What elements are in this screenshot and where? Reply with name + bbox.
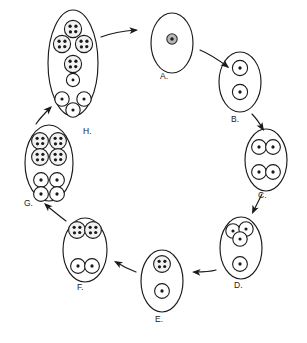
granule <box>55 192 58 195</box>
granule <box>36 153 39 156</box>
stage-label-e: E. <box>155 314 163 324</box>
arrow-h-to-a <box>101 27 138 37</box>
granule <box>54 137 57 140</box>
cell-membrane <box>25 125 73 201</box>
granule <box>78 226 81 229</box>
stage-d: D. <box>220 217 262 290</box>
stage-label-f: F. <box>77 282 84 292</box>
granule <box>82 97 85 100</box>
granule <box>39 192 42 195</box>
stage-label-a: A. <box>160 71 168 81</box>
granule <box>271 145 274 148</box>
granule <box>89 226 92 229</box>
granule <box>57 40 60 43</box>
stage-h: H. <box>48 10 98 136</box>
granule <box>163 260 166 263</box>
cell-cycle-diagram: A.B.C.D.E.F.G.H. <box>0 0 307 343</box>
granule <box>59 153 62 156</box>
granule <box>69 30 72 33</box>
spore-mature <box>64 55 81 72</box>
arrow-head-icon <box>112 258 123 268</box>
granule <box>36 142 39 145</box>
arrow-d-to-e <box>192 269 216 276</box>
granule <box>69 65 72 68</box>
stage-label-b: B. <box>231 114 239 124</box>
granule <box>271 170 274 173</box>
stage-label-g: G. <box>24 198 33 208</box>
stage-f: F. <box>63 218 107 292</box>
granule <box>160 289 163 292</box>
granule <box>238 262 241 265</box>
arrow-shaft <box>46 205 66 221</box>
granule <box>54 158 57 161</box>
granule <box>74 60 77 63</box>
granule <box>89 231 92 234</box>
spore-mature <box>75 35 92 52</box>
granule <box>85 45 88 48</box>
granule <box>54 153 57 156</box>
stage-c: C. <box>245 129 287 200</box>
spore-mature <box>50 133 67 150</box>
granule <box>68 25 71 28</box>
granule <box>73 226 76 229</box>
granule <box>244 227 247 230</box>
granule <box>163 265 166 268</box>
granule <box>41 153 44 156</box>
granule <box>80 45 83 48</box>
granule <box>36 137 39 140</box>
granule <box>257 170 260 173</box>
granule <box>238 90 241 93</box>
spore-mature <box>32 149 49 166</box>
granule <box>257 145 260 148</box>
granule <box>73 231 76 234</box>
arrow-head-icon <box>249 205 259 216</box>
granule <box>71 108 74 111</box>
arrow-e-to-f <box>112 258 136 272</box>
arrow-g-to-h <box>36 104 54 124</box>
granule <box>41 142 44 145</box>
granule <box>78 231 81 234</box>
granule <box>41 158 44 161</box>
granule <box>59 158 62 161</box>
granule <box>74 65 77 68</box>
granule <box>79 40 82 43</box>
stage-label-h: H. <box>83 126 92 136</box>
granule <box>60 97 63 100</box>
spore-mature <box>85 222 102 239</box>
stage-e: E. <box>141 250 183 324</box>
granule <box>238 237 241 240</box>
granule <box>59 137 62 140</box>
spore-mature <box>69 222 86 239</box>
granule <box>158 265 161 268</box>
stage-label-d: D. <box>234 280 243 290</box>
granule <box>74 25 77 28</box>
granule <box>39 178 42 181</box>
granule <box>54 142 57 145</box>
granule <box>85 40 88 43</box>
granule <box>94 226 97 229</box>
granule <box>74 30 77 33</box>
nucleolus <box>170 37 174 41</box>
stage-a: A. <box>151 13 193 81</box>
granule <box>55 178 58 181</box>
granule <box>76 264 79 267</box>
spore-mature <box>50 149 67 166</box>
diagram-canvas: A.B.C.D.E.F.G.H. <box>0 0 307 343</box>
granule <box>59 142 62 145</box>
arrow-f-to-g <box>42 200 66 221</box>
granule <box>231 229 234 232</box>
spore-mature <box>32 133 49 150</box>
cell-membrane <box>245 129 287 191</box>
spore-mature <box>64 20 81 37</box>
granule <box>41 137 44 140</box>
granule <box>36 158 39 161</box>
arrow-c-to-d <box>249 194 262 215</box>
stage-g: G. <box>24 125 73 208</box>
granule <box>58 45 61 48</box>
granule <box>63 40 66 43</box>
granule <box>68 60 71 63</box>
granule <box>72 79 75 82</box>
granule <box>94 231 97 234</box>
granule <box>63 45 66 48</box>
granule <box>238 66 241 69</box>
